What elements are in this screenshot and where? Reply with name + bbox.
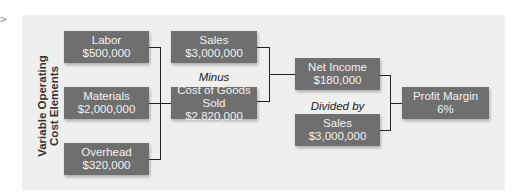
overhead-title: Overhead: [64, 146, 149, 159]
sales-box-bottom: Sales $3,000,000: [295, 114, 380, 146]
sales-top-value: $3,000,000: [171, 47, 257, 60]
sales-bottom-value: $3,000,000: [295, 130, 380, 143]
net-income-title: Net Income: [295, 61, 380, 74]
sales-bottom-title: Sales: [295, 117, 380, 130]
net-income-value: $180,000: [295, 74, 380, 87]
overhead-box: Overhead $320,000: [64, 143, 149, 175]
profit-margin-title: Profit Margin: [402, 90, 489, 103]
divided-by-operator: Divided by: [295, 100, 380, 112]
overhead-value: $320,000: [64, 159, 149, 172]
profit-margin-value: 6%: [402, 103, 489, 116]
connector-line: [380, 75, 390, 76]
cogs-box: Cost of Goods Sold $2,820,000: [171, 87, 257, 119]
connector-line: [380, 130, 390, 131]
connector-line: [390, 103, 402, 104]
connector-line: [160, 47, 161, 160]
side-label-line-1: Variable Operating: [36, 55, 48, 157]
minus-operator: Minus: [171, 71, 257, 83]
labor-title: Labor: [64, 34, 149, 47]
connector-line: [257, 47, 269, 48]
connector-line: [269, 74, 295, 75]
sales-box-top: Sales $3,000,000: [171, 31, 257, 63]
labor-value: $500,000: [64, 47, 149, 60]
materials-box: Materials $2,000,000: [64, 87, 149, 119]
connector-line: [149, 159, 160, 160]
materials-title: Materials: [64, 90, 149, 103]
cogs-title: Cost of Goods Sold: [171, 84, 257, 110]
side-label-line-2: Cost Elements: [48, 55, 60, 157]
chevron-right-icon: >: [0, 14, 8, 24]
net-income-box: Net Income $180,000: [295, 58, 380, 90]
connector-line: [257, 101, 269, 102]
cogs-value: $2,820,000: [171, 110, 257, 123]
sales-top-title: Sales: [171, 34, 257, 47]
labor-box: Labor $500,000: [64, 31, 149, 63]
profit-margin-box: Profit Margin 6%: [402, 87, 489, 119]
connector-line: [149, 47, 160, 48]
materials-value: $2,000,000: [64, 103, 149, 116]
